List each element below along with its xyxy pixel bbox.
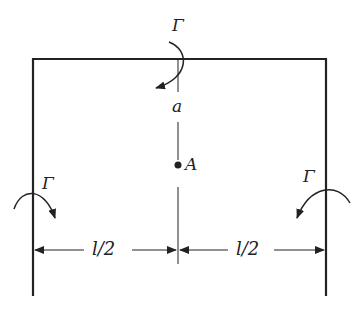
frame-diagram: Γ Γ Γ a A l/2 l/2 [0, 0, 361, 318]
diagram-graphics [0, 0, 361, 318]
dimension-label-left: l/2 [89, 240, 118, 258]
dimension-label-right: l/2 [233, 240, 262, 258]
moment-label-top: Γ [172, 17, 184, 34]
moment-arrow-left [14, 193, 55, 218]
point-label-a: A [185, 156, 197, 173]
moment-arrow-top [156, 42, 183, 88]
moment-arrow-right [297, 190, 350, 218]
distance-label-a: a [172, 98, 182, 115]
moment-label-left: Γ [42, 175, 54, 192]
point-a-dot [175, 162, 182, 169]
portal-frame [33, 58, 327, 296]
moment-label-right: Γ [303, 168, 315, 185]
